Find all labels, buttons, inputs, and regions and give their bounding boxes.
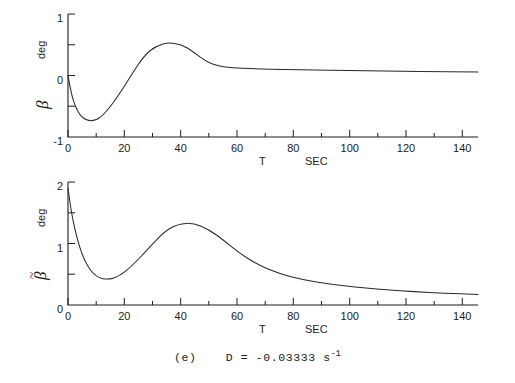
- xtick-label-top-6: 120: [397, 143, 415, 154]
- xtick-label-bottom-1: 20: [118, 311, 130, 322]
- xtick-label-bottom-2: 40: [175, 311, 187, 322]
- figure-caption: (e) D = -0.03333 s-1: [0, 349, 515, 364]
- ytick-label-bottom-1: 1: [47, 242, 63, 253]
- xaxis-symbol-top: T: [259, 156, 266, 167]
- xaxis-symbol-bottom: T: [259, 324, 266, 335]
- xtick-label-top-7: 140: [453, 143, 471, 154]
- xtick-label-bottom-4: 80: [287, 311, 299, 322]
- yaxis-unit-top: deg: [36, 41, 47, 59]
- yaxis-symbol-top: β: [34, 101, 51, 109]
- xtick-label-bottom-7: 140: [453, 311, 471, 322]
- xtick-label-bottom-6: 120: [397, 311, 415, 322]
- xtick-label-top-3: 60: [231, 143, 243, 154]
- xtick-label-top-4: 80: [287, 143, 299, 154]
- ytick-label-top-0: 1: [47, 13, 63, 24]
- xaxis-unit-top: SEC: [305, 156, 328, 167]
- caption-body: D = -0.03333 s: [226, 351, 331, 364]
- yaxis-symbol-bottom-glyph: ~ β: [32, 272, 49, 280]
- tilde-accent-icon: ~: [25, 272, 38, 279]
- xtick-label-top-1: 20: [118, 143, 130, 154]
- plot-area-beta: [0, 4, 500, 169]
- xtick-label-top-2: 40: [175, 143, 187, 154]
- ytick-label-bottom-2: 0: [47, 304, 63, 315]
- caption-exponent: -1: [331, 349, 341, 359]
- plot-panel-beta-tilde: 2 1 0 0 20 40 60 80 100 120 140 T SEC de…: [0, 172, 500, 337]
- yaxis-symbol-bottom: ~ β: [32, 272, 49, 280]
- caption-index: (e): [174, 351, 197, 364]
- ytick-label-top-1: 0: [47, 74, 63, 85]
- xtick-label-bottom-5: 100: [341, 311, 359, 322]
- xaxis-unit-bottom: SEC: [305, 324, 328, 335]
- plot-area-beta-tilde: [0, 172, 500, 337]
- yaxis-unit-bottom: deg: [36, 209, 47, 227]
- xtick-label-top-0: 0: [65, 143, 71, 154]
- xtick-label-top-5: 100: [341, 143, 359, 154]
- xtick-label-bottom-0: 0: [65, 311, 71, 322]
- ytick-label-bottom-0: 2: [47, 181, 63, 192]
- figure-root: 1 0 -1 0 20 40 60 80 100 120 140 T SEC d…: [0, 0, 515, 383]
- xtick-label-bottom-3: 60: [231, 311, 243, 322]
- plot-panel-beta: 1 0 -1 0 20 40 60 80 100 120 140 T SEC d…: [0, 4, 500, 169]
- ytick-label-top-2: -1: [43, 136, 63, 147]
